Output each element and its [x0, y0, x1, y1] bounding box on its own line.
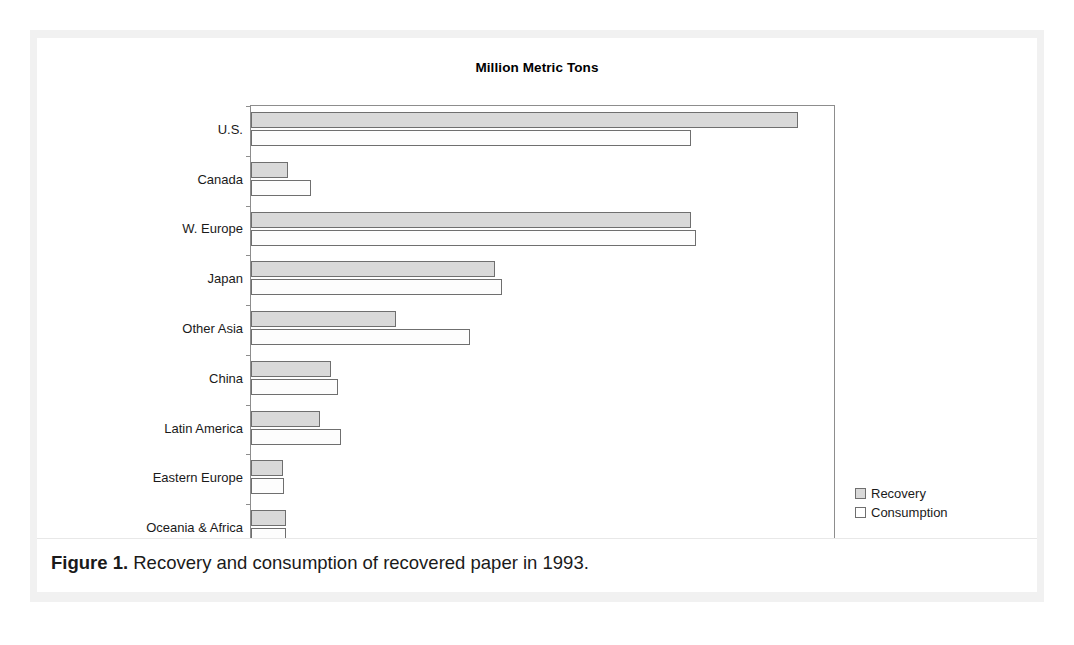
bar-recovery [251, 212, 691, 228]
bar-consumption [251, 230, 696, 246]
bar-recovery [251, 411, 320, 427]
bar-recovery [251, 311, 396, 327]
bar-group [251, 206, 834, 256]
legend-swatch-icon [855, 507, 866, 518]
legend-label: Recovery [871, 486, 926, 501]
bar-recovery [251, 510, 286, 526]
bar-group [251, 454, 834, 504]
bar-consumption [251, 329, 470, 345]
bar-group [251, 255, 834, 305]
legend-swatch-icon [855, 488, 866, 499]
y-axis-label: Oceania & Africa [53, 520, 243, 535]
legend-label: Consumption [871, 505, 948, 520]
y-axis-tick [246, 405, 251, 406]
y-axis-label: Eastern Europe [53, 470, 243, 485]
bar-recovery [251, 460, 283, 476]
y-axis-tick [246, 206, 251, 207]
bar-consumption [251, 429, 341, 445]
bar-recovery [251, 261, 495, 277]
chart-title: Million Metric Tons [37, 60, 1037, 75]
y-axis-tick [246, 255, 251, 256]
bar-group [251, 106, 834, 156]
bar-consumption [251, 478, 284, 494]
figure-caption-text: Recovery and consumption of recovered pa… [128, 552, 589, 573]
bar-group [251, 156, 834, 206]
y-axis-tick [246, 106, 251, 107]
y-axis-label: China [53, 371, 243, 386]
y-axis-label: Latin America [53, 421, 243, 436]
y-axis-tick [246, 156, 251, 157]
plot-area [250, 105, 835, 553]
bar-consumption [251, 130, 691, 146]
bar-group [251, 305, 834, 355]
y-axis-label: Canada [53, 172, 243, 187]
chart-legend: RecoveryConsumption [855, 486, 1015, 524]
y-axis-label: Japan [53, 271, 243, 286]
legend-item: Recovery [855, 486, 1015, 501]
bar-recovery [251, 361, 331, 377]
bar-consumption [251, 379, 338, 395]
bar-recovery [251, 112, 798, 128]
y-axis-tick [246, 454, 251, 455]
y-axis-tick [246, 355, 251, 356]
y-axis-label: Other Asia [53, 321, 243, 336]
figure-caption-label: Figure 1. [51, 552, 128, 573]
bar-consumption [251, 180, 311, 196]
caption-band: Figure 1. Recovery and consumption of re… [37, 538, 1037, 592]
y-axis-label: U.S. [53, 122, 243, 137]
figure-caption: Figure 1. Recovery and consumption of re… [51, 552, 589, 574]
y-axis-tick [246, 305, 251, 306]
bar-recovery [251, 162, 288, 178]
bar-consumption [251, 279, 502, 295]
bar-group [251, 355, 834, 405]
legend-item: Consumption [855, 505, 1015, 520]
y-axis-category-labels: U.S.CanadaW. EuropeJapanOther AsiaChinaL… [50, 105, 243, 553]
bar-group [251, 405, 834, 455]
y-axis-label: W. Europe [53, 221, 243, 236]
y-axis-tick [246, 504, 251, 505]
figure-card: Million Metric Tons U.S.CanadaW. EuropeJ… [30, 30, 1044, 602]
